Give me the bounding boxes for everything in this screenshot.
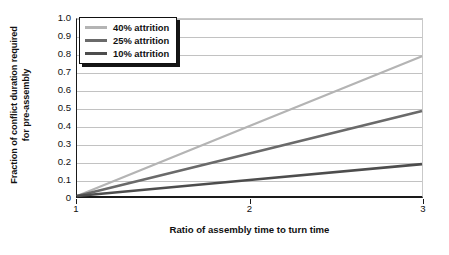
y-axis-tick-labels: 00.10.20.30.40.50.60.70.80.91.0 — [40, 0, 74, 255]
legend-item-label: 10% attrition — [113, 48, 169, 59]
y-tick-label: 0.1 — [41, 175, 71, 185]
series-line — [77, 164, 422, 196]
y-axis-title-wrapper: Fraction of conflict duration required f… — [0, 0, 40, 210]
y-tick-label: 0.7 — [41, 67, 71, 77]
chart-legend: 40% attrition25% attrition10% attrition — [79, 17, 177, 64]
y-axis-title-line2: for pre-assembly — [20, 26, 32, 184]
y-tick-label: 0.2 — [41, 157, 71, 167]
y-tick-label: 0.9 — [41, 31, 71, 41]
y-tick-label: 0.4 — [41, 121, 71, 131]
y-axis-title-line1: Fraction of conflict duration required — [9, 26, 19, 184]
y-tick-label: 1.0 — [41, 13, 71, 23]
series-line — [77, 56, 422, 196]
y-tick-label: 0.3 — [41, 139, 71, 149]
legend-item: 10% attrition — [85, 47, 169, 60]
x-tick-label: 2 — [247, 203, 252, 214]
legend-item-label: 40% attrition — [113, 22, 169, 33]
y-axis-title: Fraction of conflict duration required f… — [9, 26, 32, 184]
y-tick-label: 0.8 — [41, 49, 71, 59]
series-line — [77, 111, 422, 196]
legend-item-label: 25% attrition — [113, 35, 169, 46]
x-tick-label: 1 — [73, 203, 78, 214]
y-tick-label: 0.5 — [41, 103, 71, 113]
legend-line-swatch — [85, 39, 107, 41]
legend-line-swatch — [85, 52, 107, 54]
chart-figure: Fraction of conflict duration required f… — [0, 0, 449, 255]
x-tick-label: 3 — [420, 203, 425, 214]
legend-line-swatch — [85, 26, 107, 28]
y-tick-label: 0.6 — [41, 85, 71, 95]
y-tick-label: 0 — [41, 193, 71, 203]
x-axis-title: Ratio of assembly time to turn time — [76, 224, 423, 235]
legend-item: 25% attrition — [85, 34, 169, 47]
legend-item: 40% attrition — [85, 21, 169, 34]
